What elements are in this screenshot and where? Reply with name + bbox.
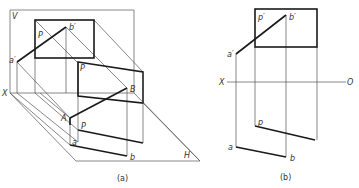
label-a-prime-b: a′ xyxy=(227,50,234,59)
label-B: B xyxy=(130,85,136,94)
label-p-mid: P xyxy=(80,64,85,73)
caption-b: (b) xyxy=(280,173,291,182)
label-A: A xyxy=(60,114,66,123)
p-on-h xyxy=(78,130,143,143)
label-b-b: b xyxy=(290,154,295,163)
label-b-prime-b: b′ xyxy=(289,13,296,22)
label-x-a: X xyxy=(1,89,8,98)
h-plane xyxy=(10,93,200,161)
projection-diagram: V H X P P P b′ a′ A B a b (a) X O p′ b′ xyxy=(0,0,359,188)
label-a-prime-a: a′ xyxy=(9,56,16,65)
label-b-prime-a: b′ xyxy=(69,23,76,32)
label-o: O xyxy=(347,78,353,87)
label-p-b: p xyxy=(257,118,263,127)
p-line-b xyxy=(255,126,315,140)
figure-a: V H X P P P b′ a′ A B a b (a) xyxy=(1,10,200,183)
figure-b: X O p′ b′ a′ p a b (b) xyxy=(218,9,353,182)
label-a-a: a xyxy=(72,138,77,147)
label-x-b: X xyxy=(218,78,225,87)
label-p-lower: P xyxy=(81,122,86,131)
label-a-b: a xyxy=(228,143,233,152)
label-p-upper: P xyxy=(38,31,43,40)
label-p-prime-b: p′ xyxy=(257,13,265,22)
p-prime-rect-a xyxy=(35,20,94,58)
projection-rays-a xyxy=(10,20,143,156)
label-b-a: b xyxy=(130,153,135,162)
ab-line-b xyxy=(236,147,286,157)
label-v: V xyxy=(12,12,18,21)
caption-a: (a) xyxy=(117,174,128,183)
ab-on-h xyxy=(70,145,127,156)
label-h: H xyxy=(184,151,190,160)
